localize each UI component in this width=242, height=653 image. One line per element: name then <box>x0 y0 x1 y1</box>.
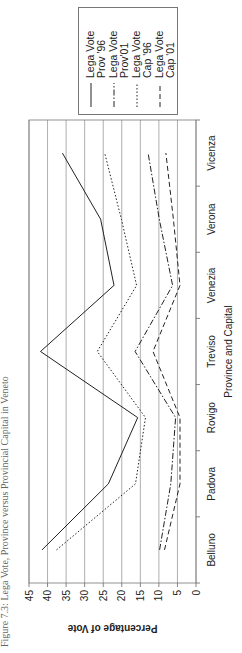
series-line-2 <box>135 153 176 550</box>
y-tick-label: 30 <box>79 590 90 602</box>
x-axis-title: Province and Capital <box>223 305 234 397</box>
x-tick-label: Verona <box>206 203 217 235</box>
legend-item: Lega VoteProv '96 <box>85 14 108 108</box>
y-tick-label: 25 <box>98 590 109 602</box>
series-line-1 <box>41 153 138 550</box>
series-line-4 <box>153 153 180 550</box>
legend-label: Lega VoteCap '01 <box>154 31 175 78</box>
y-tick-label: 20 <box>116 590 127 602</box>
legend-swatch <box>112 82 116 108</box>
series-line-3 <box>57 153 146 550</box>
y-tick-label: 5 <box>172 590 183 596</box>
y-tick-label: 15 <box>135 590 146 602</box>
legend: Lega VoteProv '96Lega VoteProv'01Lega Vo… <box>78 7 178 115</box>
legend-label: Lega VoteCap '96 <box>131 31 152 78</box>
legend-label: Lega VoteProv '96 <box>85 31 106 78</box>
rotated-figure: Figure 7.3: Lega Vote, Province versus P… <box>0 0 242 653</box>
y-axis-title: Percentage of Vote <box>67 623 157 634</box>
plot-frame <box>29 120 196 583</box>
legend-item: Lega VoteProv'01 <box>108 14 131 108</box>
x-tick-label: Belluno <box>206 533 217 567</box>
x-tick-label: Venezia <box>206 267 217 303</box>
legend-swatch <box>135 82 139 108</box>
x-tick-label: Padova <box>206 466 217 500</box>
y-tick-label: 45 <box>24 590 35 602</box>
y-tick-label: 10 <box>153 590 164 602</box>
legend-swatch <box>89 82 93 108</box>
x-tick-label: Treviso <box>206 335 217 368</box>
y-tick-label: 35 <box>61 590 72 602</box>
y-tick-label: 40 <box>42 590 53 602</box>
x-tick-label: Vicenza <box>206 135 217 171</box>
x-tick-label: Rovigo <box>206 402 217 434</box>
legend-item: Lega VoteCap '96 <box>131 14 154 108</box>
legend-label: Lega VoteProv'01 <box>108 31 129 78</box>
y-tick-label: 0 <box>191 590 202 596</box>
legend-swatch <box>158 82 162 108</box>
legend-item: Lega VoteCap '01 <box>154 14 177 108</box>
